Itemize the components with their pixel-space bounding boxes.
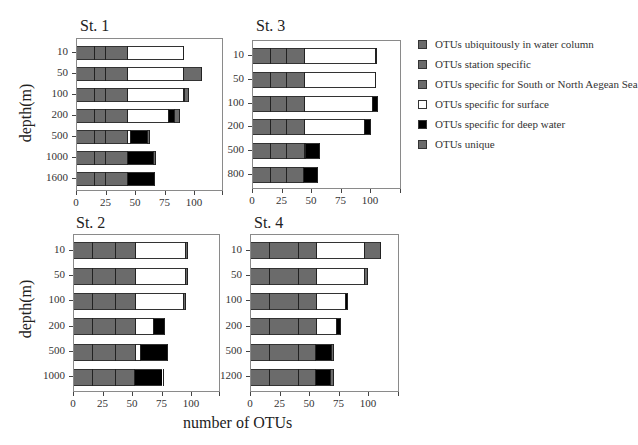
bar-end	[201, 67, 202, 81]
segment-ubiq	[253, 48, 270, 64]
x-tick-label: 50	[117, 397, 147, 409]
x-axis-title: number of OTUs	[183, 414, 292, 432]
x-tick	[282, 189, 283, 193]
segment-deep	[315, 369, 330, 386]
y-tick	[246, 275, 250, 276]
x-tick	[162, 392, 163, 396]
y-tick	[248, 150, 252, 151]
segment-stn	[94, 67, 106, 81]
segment-ubiq	[253, 119, 270, 135]
y-tick-label: 200	[28, 108, 68, 120]
segment-ubiq	[74, 293, 92, 310]
segment-divider	[135, 344, 136, 361]
segment-surface	[127, 88, 184, 102]
legend-label: OTUs station specific	[435, 58, 531, 70]
segment-sn	[298, 369, 315, 386]
segment-surface	[135, 268, 185, 285]
panel-title-st-2: St. 2	[76, 214, 105, 232]
y-tick	[69, 275, 73, 276]
x-tick-label: 100	[179, 196, 209, 208]
segment-sn	[286, 72, 304, 88]
segment-divider	[94, 151, 95, 165]
plot-frame-st-3	[252, 40, 401, 189]
segment-ubiq	[253, 72, 270, 88]
x-tick-end	[400, 189, 401, 193]
segment-divider	[183, 293, 184, 310]
y-tick	[246, 376, 250, 377]
x-tick	[309, 392, 310, 396]
segment-sn	[115, 344, 135, 361]
x-tick-label: 0	[61, 196, 91, 208]
segment-divider	[315, 344, 316, 361]
bar-end	[333, 344, 334, 361]
bar-end	[164, 318, 165, 335]
y-tick-label: 800	[204, 167, 244, 179]
segment-divider	[269, 318, 270, 335]
x-tick	[103, 392, 104, 396]
bar-end	[377, 96, 378, 112]
segment-divider	[269, 242, 270, 259]
segment-stn	[92, 318, 116, 335]
segment-ubiq	[77, 172, 94, 186]
panel-title-st-3: St. 3	[256, 17, 285, 35]
segment-divider	[269, 344, 270, 361]
segment-ubiq	[251, 268, 269, 285]
bar-end	[155, 151, 156, 165]
segment-divider	[298, 318, 299, 335]
segment-divider	[286, 143, 287, 159]
y-tick	[248, 126, 252, 127]
segment-surface	[316, 318, 336, 335]
segment-deep	[305, 143, 320, 159]
segment-stn	[92, 268, 116, 285]
segment-divider	[130, 130, 131, 144]
y-tick	[72, 94, 76, 95]
y-tick-label: 500	[25, 344, 65, 356]
segment-sn	[286, 143, 304, 159]
segment-divider	[115, 293, 116, 310]
y-tick-label: 500	[28, 129, 68, 141]
bar-end	[188, 88, 189, 102]
segment-unique	[364, 242, 381, 259]
y-tick-label: 10	[25, 243, 65, 255]
segment-stn	[94, 88, 106, 102]
segment-stn	[270, 167, 287, 183]
segment-sn	[115, 242, 135, 259]
segment-stn	[270, 119, 287, 135]
y-tick-label: 1200	[202, 369, 242, 381]
segment-divider	[298, 344, 299, 361]
segment-divider	[105, 172, 106, 186]
y-tick-label: 10	[204, 48, 244, 60]
x-tick-label: 50	[120, 196, 150, 208]
y-tick-label: 50	[25, 268, 65, 280]
segment-sn	[105, 46, 126, 60]
y-tick	[72, 157, 76, 158]
segment-stn	[92, 344, 116, 361]
y-tick	[69, 300, 73, 301]
segment-sn	[115, 268, 135, 285]
segment-divider	[92, 344, 93, 361]
segment-divider	[315, 369, 316, 386]
segment-deep	[130, 130, 147, 144]
segment-sn	[298, 318, 316, 335]
segment-stn	[270, 96, 287, 112]
segment-divider	[305, 143, 306, 159]
segment-ubiq	[253, 167, 270, 183]
segment-divider	[304, 72, 305, 88]
segment-ubiq	[74, 268, 92, 285]
segment-divider	[94, 130, 95, 144]
segment-surface	[316, 242, 364, 259]
segment-divider	[115, 242, 116, 259]
segment-divider	[174, 109, 175, 123]
y-tick-label: 1000	[25, 369, 65, 381]
x-tick-label: 75	[326, 194, 356, 206]
y-tick-label: 200	[204, 119, 244, 131]
segment-divider	[127, 67, 128, 81]
bar-end	[347, 293, 348, 310]
segment-ubiq	[251, 242, 269, 259]
y-tick	[69, 351, 73, 352]
legend-label: OTUs unique	[435, 138, 495, 150]
x-tick-end	[219, 392, 220, 396]
segment-deep	[134, 369, 162, 386]
segment-divider	[134, 369, 135, 386]
plot-frame-st-4	[250, 234, 399, 392]
